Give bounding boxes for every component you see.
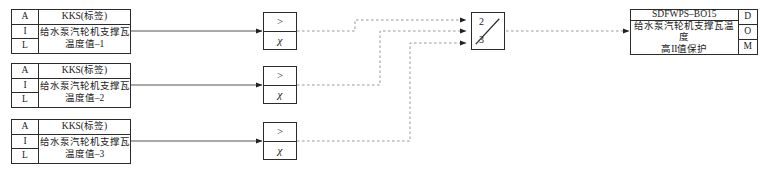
input-2-tag-a: A	[12, 64, 38, 79]
input-block-3[interactable]: A I L KKS(标签) 给水泵汽轮机支撑瓦 温度值–3	[11, 119, 131, 164]
comparator-2-operator: >	[264, 67, 296, 86]
comparator-block-2[interactable]: > χ	[263, 66, 297, 104]
output-description: 给水泵汽轮机支撑瓦温度 高II值保护	[631, 21, 738, 57]
comparator-1-setpoint: χ	[264, 32, 296, 50]
output-desc-line-2: 高II值保护	[661, 44, 707, 56]
input-1-tag-l: L	[12, 39, 38, 53]
input-block-1[interactable]: A I L KKS(标签) 给水泵汽轮机支撑瓦 温度值–1	[11, 9, 131, 54]
input-2-main-column: KKS(标签) 给水泵汽轮机支撑瓦 温度值–2	[39, 64, 130, 107]
output-tag-d: D	[739, 10, 757, 25]
voter-block-2oo3[interactable]: 2 3	[471, 12, 505, 50]
comparator-3-operator: >	[264, 123, 296, 142]
signal-wires-solid	[131, 31, 262, 141]
input-3-main-column: KKS(标签) 给水泵汽轮机支撑瓦 温度值–3	[39, 120, 130, 163]
output-tag-o: O	[739, 25, 757, 40]
input-1-tag-column: A I L	[12, 10, 39, 53]
input-1-main-column: KKS(标签) 给水泵汽轮机支撑瓦 温度值–1	[39, 10, 130, 53]
input-1-description: 给水泵汽轮机支撑瓦 温度值–1	[39, 25, 130, 53]
input-2-tag-i: I	[12, 79, 38, 94]
binary-wires-dashed	[297, 20, 629, 141]
output-tag-name: SDFWPS–BO15	[631, 10, 738, 21]
input-3-description: 给水泵汽轮机支撑瓦 温度值–3	[39, 135, 130, 163]
output-desc-line-1: 给水泵汽轮机支撑瓦温度	[631, 21, 738, 45]
input-1-tag-a: A	[12, 10, 38, 25]
input-1-kks-label: KKS(标签)	[39, 10, 130, 25]
input-2-desc-line-1: 给水泵汽轮机支撑瓦	[40, 81, 130, 93]
input-1-desc-line-2: 温度值–1	[65, 39, 105, 51]
input-2-desc-line-2: 温度值–2	[65, 93, 105, 105]
voter-slash-icon	[472, 13, 504, 49]
input-1-desc-line-1: 给水泵汽轮机支撑瓦	[40, 27, 130, 39]
input-3-desc-line-1: 给水泵汽轮机支撑瓦	[40, 137, 130, 149]
input-1-tag-i: I	[12, 25, 38, 40]
comparator-block-3[interactable]: > χ	[263, 122, 297, 160]
input-2-tag-l: L	[12, 93, 38, 107]
output-tag-m: M	[739, 40, 757, 54]
input-3-desc-line-2: 温度值–3	[65, 149, 105, 161]
input-3-tag-a: A	[12, 120, 38, 135]
comparator-3-setpoint: χ	[264, 142, 296, 160]
comparator-2-setpoint: χ	[264, 86, 296, 104]
input-2-description: 给水泵汽轮机支撑瓦 温度值–2	[39, 79, 130, 107]
input-3-kks-label: KKS(标签)	[39, 120, 130, 135]
comparator-block-1[interactable]: > χ	[263, 12, 297, 50]
input-3-tag-column: A I L	[12, 120, 39, 163]
input-block-2[interactable]: A I L KKS(标签) 给水泵汽轮机支撑瓦 温度值–2	[11, 63, 131, 108]
input-2-tag-column: A I L	[12, 64, 39, 107]
voter-denominator: 3	[479, 35, 484, 45]
output-main-column: SDFWPS–BO15 给水泵汽轮机支撑瓦温度 高II值保护	[631, 10, 738, 54]
input-2-kks-label: KKS(标签)	[39, 64, 130, 79]
input-3-tag-l: L	[12, 149, 38, 163]
logic-diagram: A I L KKS(标签) 给水泵汽轮机支撑瓦 温度值–1 A I L KKS(…	[0, 0, 770, 177]
voter-numerator: 2	[479, 17, 484, 27]
output-block[interactable]: SDFWPS–BO15 给水泵汽轮机支撑瓦温度 高II值保护 D O M	[630, 9, 758, 55]
comparator-1-operator: >	[264, 13, 296, 32]
input-3-tag-i: I	[12, 135, 38, 150]
output-tag-column: D O M	[738, 10, 757, 54]
